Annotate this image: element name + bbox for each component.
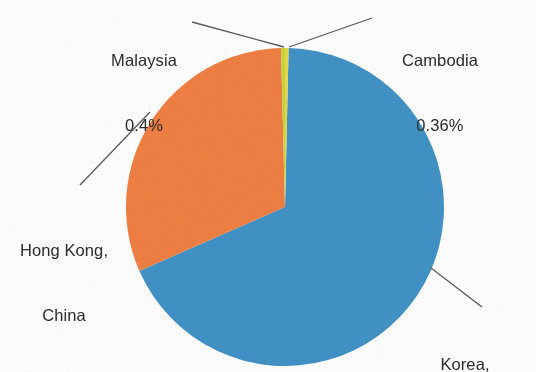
slice-label-cambodia: Cambodia 0.36% [370,6,510,180]
slice-label-malaysia-percent: 0.4% [74,115,214,137]
slice-label-malaysia-name: Malaysia [74,50,214,72]
pie-chart: Malaysia 0.4% Cambodia 0.36% Hong Kong, … [0,0,536,372]
slice-label-korea: Korea, Rep. of 68.1% [400,310,530,372]
leader-line-korea [431,268,482,307]
slice-label-cambodia-name: Cambodia [370,50,510,72]
slice-label-hong-kong-name-line2: China [2,305,126,327]
leader-line-cambodia [289,18,372,47]
slice-label-malaysia: Malaysia 0.4% [74,6,214,180]
slice-label-hong-kong: Hong Kong, China 31.2% [2,196,126,372]
slice-label-cambodia-percent: 0.36% [370,115,510,137]
slice-label-hong-kong-name-line1: Hong Kong, [2,240,126,262]
slice-label-korea-name-line1: Korea, [400,354,530,372]
